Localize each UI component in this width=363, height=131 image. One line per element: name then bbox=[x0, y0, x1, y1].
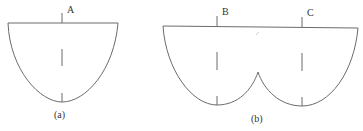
panel-b-double-bowl-curve bbox=[163, 26, 358, 106]
panel-a-bowl-curve bbox=[8, 23, 118, 102]
panel-b-top-edge bbox=[163, 26, 358, 28]
point-b-label: B bbox=[222, 6, 229, 17]
stray-mark bbox=[256, 32, 259, 35]
point-c-label: C bbox=[307, 7, 314, 18]
point-a-label: A bbox=[67, 4, 75, 15]
panel-b-caption: (b) bbox=[251, 113, 263, 125]
panel-a-caption: (a) bbox=[54, 109, 65, 121]
panel-a bbox=[8, 13, 118, 102]
diagram-canvas: A (a) B C (b) bbox=[0, 0, 363, 131]
panel-b bbox=[163, 16, 358, 106]
